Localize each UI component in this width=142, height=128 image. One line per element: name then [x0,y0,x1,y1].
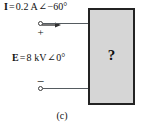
angle-icon: ∠ [38,1,47,12]
voltage-equals-sign: = [19,52,27,63]
current-phase: −60° [47,1,67,12]
voltage-symbol: E [12,52,19,63]
current-direction-arrow-icon [42,14,61,20]
current-magnitude: 0.2 A [16,1,38,12]
question-mark-icon: ? [90,47,133,64]
top-wire [43,23,89,25]
unknown-network-box[interactable]: ? [88,8,135,105]
current-equals-sign: = [8,1,16,12]
angle-icon: ∠ [47,52,56,63]
voltage-source-label: E=8 kV∠0° [12,52,65,63]
voltage-phase: 0° [56,52,65,63]
current-source-label: I=0.2 A∠−60° [4,1,67,12]
voltage-magnitude: 8 kV [27,52,47,63]
polarity-minus-sign: − [36,78,45,86]
polarity-plus-sign: + [36,28,45,36]
figure-caption: (c) [0,110,124,121]
bottom-wire [43,88,89,90]
circuit-figure: I=0.2 A∠−60° + E=8 kV∠0° − ? (c) [0,0,142,128]
